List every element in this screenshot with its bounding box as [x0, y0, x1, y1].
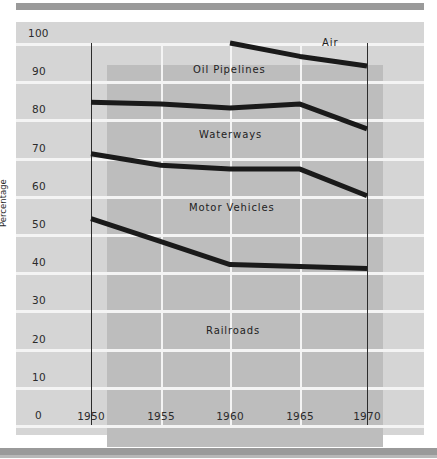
decorative-rule-bottom [0, 448, 437, 455]
decorative-rule-bottom-light [0, 455, 437, 458]
line-waterways-top [91, 102, 367, 129]
chart-figure: Percentage 100 90 80 70 60 50 40 30 20 1… [0, 0, 437, 459]
boundary-lines [0, 0, 437, 459]
line-motor-vehicles-top [91, 154, 367, 196]
line-oil-pipelines-top [230, 43, 367, 66]
line-railroads-top [91, 219, 367, 269]
